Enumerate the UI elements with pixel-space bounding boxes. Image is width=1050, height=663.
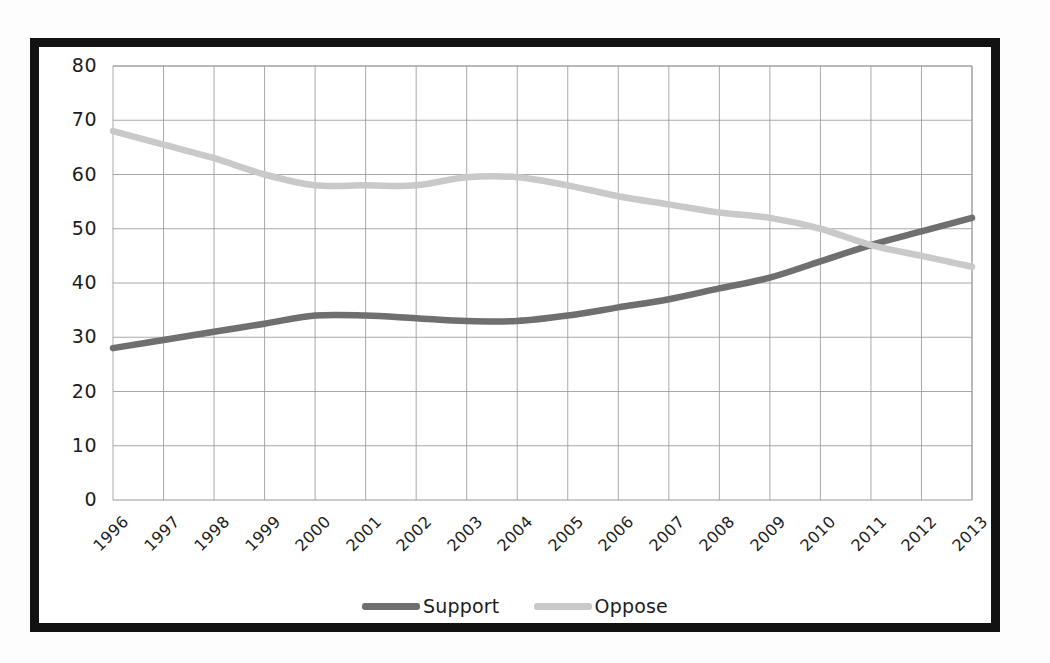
legend-label: Oppose	[595, 595, 669, 617]
legend-item: Support	[362, 595, 500, 617]
y-axis-tick-label: 50	[51, 217, 97, 239]
legend-label: Support	[423, 595, 500, 617]
legend-swatch	[534, 603, 592, 610]
legend-swatch	[362, 603, 420, 610]
y-axis-tick-label: 20	[51, 380, 97, 402]
chart-legend: SupportOppose	[39, 595, 991, 617]
y-axis-tick-label: 0	[51, 488, 97, 510]
chart-frame: 80706050403020100 1996199719981999200020…	[30, 38, 1000, 632]
y-axis-tick-label: 40	[51, 271, 97, 293]
y-axis-tick-label: 60	[51, 163, 97, 185]
y-axis-tick-label: 70	[51, 108, 97, 130]
chart-inner: 80706050403020100 1996199719981999200020…	[39, 47, 991, 623]
series-line-oppose	[113, 131, 972, 267]
legend-item: Oppose	[534, 595, 669, 617]
y-axis-tick-label: 80	[51, 54, 97, 76]
y-axis-tick-label: 30	[51, 325, 97, 347]
y-axis-tick-label: 10	[51, 434, 97, 456]
